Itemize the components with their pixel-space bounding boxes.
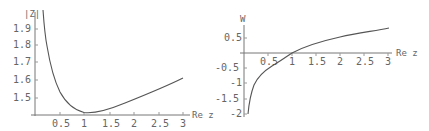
left-y-tick-label: 1.9 — [13, 23, 31, 34]
left-y-axis-label: |Z| — [24, 9, 40, 19]
right-y-axis-label: W — [240, 14, 246, 24]
left-x-tick-label: 0.5 — [52, 118, 70, 129]
right-y-tick-label: -0.5 — [215, 62, 239, 73]
right-y-tick-label: -1 — [230, 77, 242, 88]
charts-canvas: |Z| Re z 1.9 1.8 1.7 1.6 1.5 0.5 1 1.5 2… — [0, 0, 429, 131]
right-y-tick-label: -2 — [230, 108, 242, 119]
right-x-tick-label: 1 — [289, 56, 295, 67]
right-x-ticks: 0.5 1 1.5 2 2.5 3 — [260, 53, 391, 67]
left-x-tick-label: 1.5 — [102, 118, 120, 129]
right-x-tick-label: 2 — [337, 56, 343, 67]
right-x-tick-label: 0.5 — [260, 56, 278, 67]
right-y-ticks: 0.5 -0.5 -1 -1.5 -2 — [215, 32, 247, 119]
left-y-tick-label: 1.5 — [13, 92, 31, 103]
left-x-tick-label: 2 — [131, 118, 137, 129]
right-y-tick-label: 0.5 — [224, 32, 242, 43]
right-x-tick-label: 3 — [385, 56, 391, 67]
left-x-axis-label: Re z — [192, 110, 214, 120]
left-y-tick-label: 1.6 — [13, 74, 31, 85]
right-x-tick-label: 2.5 — [356, 56, 374, 67]
left-curve-abs-z — [43, 10, 183, 113]
left-chart: |Z| Re z 1.9 1.8 1.7 1.6 1.5 0.5 1 1.5 2… — [13, 9, 214, 129]
left-x-tick-label: 3 — [180, 118, 186, 129]
right-y-tick-label: -1.5 — [215, 93, 239, 104]
left-y-ticks: 1.9 1.8 1.7 1.6 1.5 — [13, 23, 38, 103]
left-y-tick-label: 1.7 — [13, 56, 31, 67]
right-x-axis-label: Re z — [396, 48, 418, 58]
left-y-tick-label: 1.8 — [13, 39, 31, 50]
right-chart: W Re z 0.5 -0.5 -1 -1.5 -2 0.5 1 1.5 2 2… — [215, 14, 418, 119]
left-x-tick-label: 2.5 — [151, 118, 169, 129]
right-x-tick-label: 1.5 — [308, 56, 326, 67]
left-x-tick-label: 1 — [81, 118, 87, 129]
right-curve-w — [248, 28, 389, 114]
